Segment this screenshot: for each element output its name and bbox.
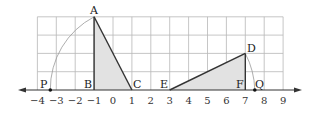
svg-text:5: 5 (204, 95, 210, 106)
svg-text:1: 1 (129, 95, 135, 106)
svg-text:−4: −4 (30, 95, 45, 106)
svg-text:8: 8 (261, 95, 267, 106)
svg-text:−3: −3 (49, 95, 64, 106)
svg-text:−1: −1 (87, 95, 102, 106)
number-line-diagram: A B C D E F P Q −4 −3 −2 −1 0 1 2 3 4 5 … (0, 0, 317, 114)
svg-text:0: 0 (110, 95, 116, 106)
label-a: A (89, 4, 99, 17)
tick-labels: −4 −3 −2 −1 0 1 2 3 4 5 6 7 8 9 (30, 95, 286, 106)
label-e: E (160, 78, 168, 91)
svg-text:4: 4 (185, 95, 191, 106)
svg-text:9: 9 (280, 95, 286, 106)
arrow-left-icon (18, 88, 26, 93)
label-q: Q (255, 78, 264, 91)
svg-text:−2: −2 (68, 95, 83, 106)
point-p (49, 88, 53, 92)
label-p: P (40, 78, 48, 91)
svg-text:7: 7 (242, 95, 248, 106)
label-c: C (133, 78, 141, 91)
label-f: F (236, 78, 244, 91)
svg-text:2: 2 (148, 95, 154, 106)
svg-text:3: 3 (167, 95, 173, 106)
arrow-right-icon (294, 88, 302, 93)
label-d: D (247, 42, 256, 55)
svg-text:6: 6 (223, 95, 229, 106)
label-b: B (84, 78, 92, 91)
